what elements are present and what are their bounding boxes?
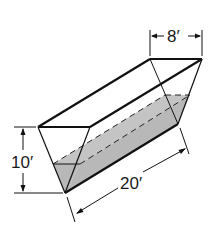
width-label: 8′ <box>167 27 180 46</box>
trough-diagram: 8′ 10′ 20′ <box>0 0 218 232</box>
length-label: 20′ <box>120 174 142 193</box>
height-label: 10′ <box>11 153 33 172</box>
